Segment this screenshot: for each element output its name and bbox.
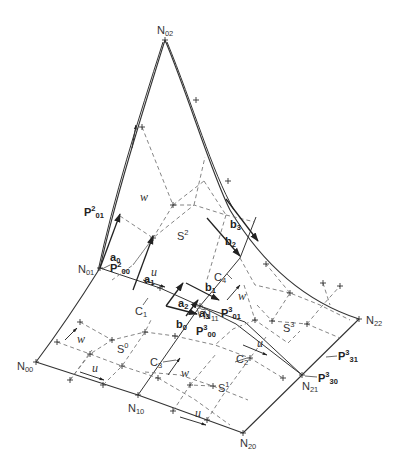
label-w-s0: w [77,332,85,346]
label-b2: b2 [225,235,236,249]
label-b0: b0 [176,318,187,332]
label-b3: b3 [230,218,241,232]
label-N00: N00 [17,360,33,374]
label-N02: N02 [157,24,173,38]
label-S3: S3 [283,320,295,334]
label-N01: N01 [78,263,94,277]
label-N20: N20 [240,437,256,451]
label-N21: N21 [302,380,318,394]
label-w-top: w [140,190,148,204]
label-P3-31: P331 [338,348,358,364]
label-u-bottom-right: u [195,406,201,420]
label-C3: C3 [150,356,162,370]
label-N10: N10 [128,402,144,416]
node-labels: N02 N01 N00 N10 N11 N20 N21 N22 [17,24,382,451]
label-N22: N22 [366,314,382,328]
label-a0: a0 [110,251,120,265]
label-P3-00: P300 [196,323,216,339]
label-u-c2: u [257,336,263,350]
u-arrow-c2 [243,345,267,355]
label-w-c4: w [238,289,246,303]
label-b1: b1 [205,281,216,295]
control-point-ticks [33,37,362,436]
label-u-c1: u [151,265,157,279]
label-C2: C2 [236,353,248,367]
label-C4: C4 [214,271,226,285]
label-P3-30: P330 [318,370,338,386]
label-w-c3: w [181,366,189,380]
label-C1: C1 [135,305,147,319]
w-arrow-s0 [65,328,77,340]
label-u-bottom-left: u [92,361,98,375]
label-a2: a2 [178,297,188,311]
boundary-edges [36,40,359,433]
label-S0: S0 [117,341,129,355]
surface-patch-diagram: N02 N01 N00 N10 N11 N20 N21 N22 S0 S1 S2… [0,0,399,471]
label-P2-01: P201 [84,204,104,220]
label-P3-01: P301 [221,305,241,321]
label-S2: S2 [177,228,189,242]
